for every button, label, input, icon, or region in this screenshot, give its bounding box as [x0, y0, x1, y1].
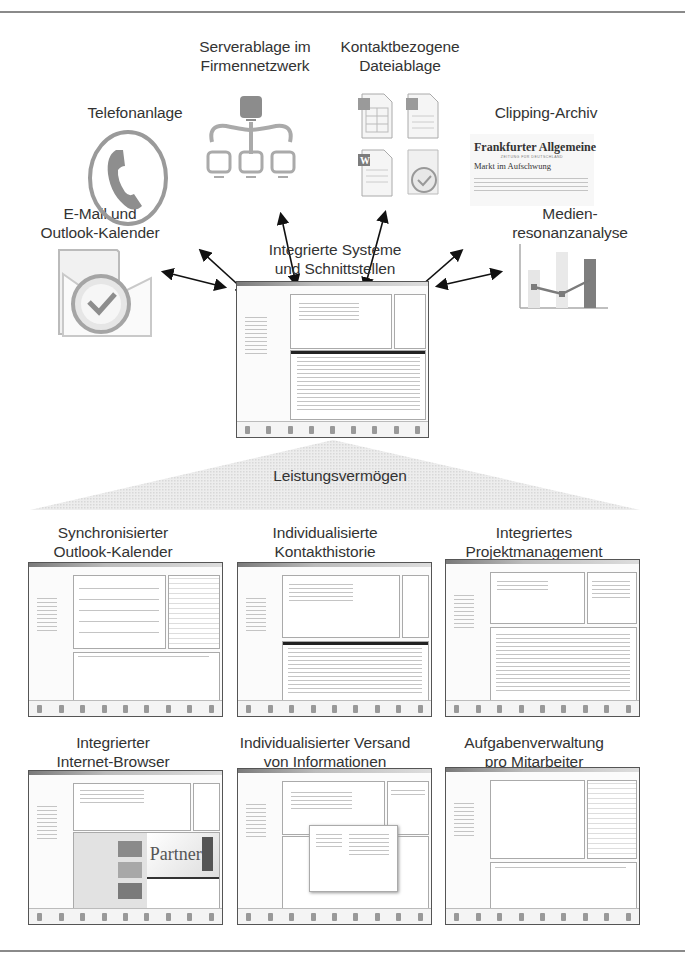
browser-banner-text: Partner: [150, 844, 202, 865]
screenshot-contact-history: [237, 562, 432, 717]
capability-label: Leistungsvermögen: [240, 466, 440, 485]
feature-label-contact: IndividualisierteKontakthistorie: [225, 523, 425, 561]
app-sidebar: [239, 287, 281, 421]
feature-label-browser: IntegrierterInternet-Browser: [13, 733, 213, 771]
bottom-divider: [0, 950, 685, 952]
arrow-email: [164, 272, 224, 287]
screenshot-project-management: [445, 559, 640, 717]
feature-label-mailing: Individualisierter Versandvon Informatio…: [218, 733, 432, 771]
feature-label-project: IntegriertesProjektmanagement: [434, 523, 634, 561]
screenshot-calendar: [28, 562, 223, 717]
hub-app-screenshot: [236, 281, 429, 438]
screenshot-task-management: [445, 767, 640, 925]
feature-label-tasks: Aufgabenverwaltungpro Mitarbeiter: [434, 733, 634, 771]
hub-title: Integrierte Systemeund Schnittstellen: [235, 240, 435, 278]
screenshot-internet-browser: Partner: [28, 770, 223, 925]
feature-label-calendar: SynchronisierterOutlook-Kalender: [13, 523, 213, 561]
screenshot-mailing: [237, 768, 432, 925]
mailing-dialog: [309, 825, 398, 892]
arrow-medienresonanz: [438, 272, 500, 286]
